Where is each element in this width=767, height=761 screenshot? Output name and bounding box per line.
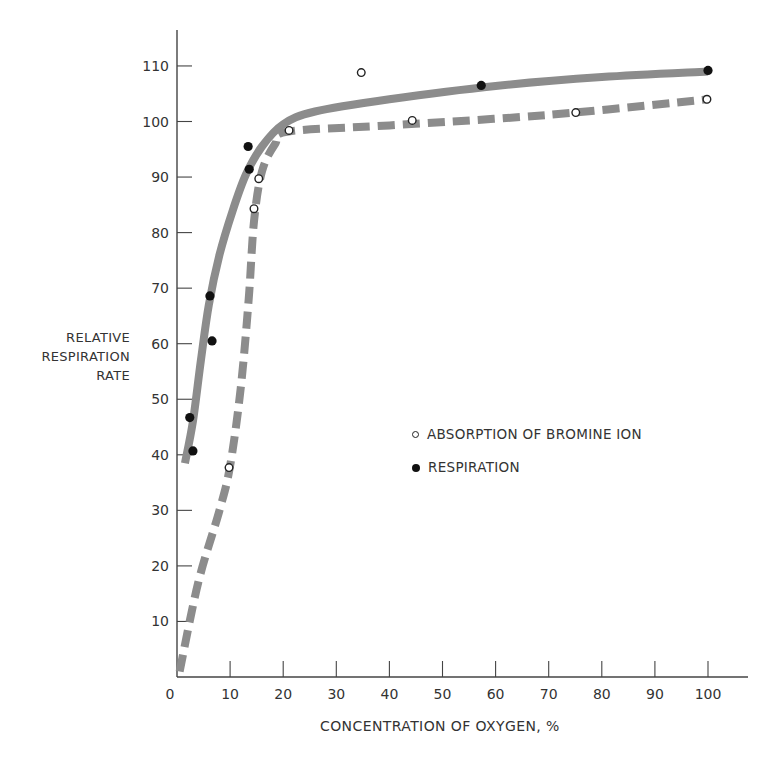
respiration-point [245,165,254,174]
y-axis-label-line-3: RATE [41,366,130,385]
y-tick-label: 50 [151,391,169,407]
respiration-point [477,81,486,90]
bromine-point [408,117,416,125]
x-tick-label: 100 [695,686,722,702]
y-tick-label: 30 [151,502,169,518]
y-tick-label: 100 [142,114,169,130]
x-tick-label: 80 [593,686,611,702]
legend-label-respiration: RESPIRATION [428,451,520,484]
x-tick-label: 0 [166,686,175,702]
bromine-point [250,205,258,213]
respiration-point [703,66,712,75]
y-tick-label: 110 [142,58,169,74]
bromine-point [703,95,711,103]
x-tick-label: 70 [540,686,558,702]
y-tick-label: 90 [151,169,169,185]
x-tick-label: 40 [380,686,398,702]
open-circle-icon [412,431,419,438]
respiration-point [185,413,194,422]
x-tick-label: 60 [487,686,505,702]
y-tick-label: 70 [151,280,169,296]
x-axis-label: CONCENTRATION OF OXYGEN, % [320,718,560,734]
respiration-point [188,446,197,455]
legend-item-bromine: ABSORPTION OF BROMINE ION [412,418,642,451]
x-tick-label: 30 [327,686,345,702]
legend-label-bromine: ABSORPTION OF BROMINE ION [427,418,642,451]
respiration-point [205,291,214,300]
bromine-point [357,69,365,77]
y-axis-label-line-2: RESPIRATION [41,347,130,366]
bromine-point [225,464,233,472]
respiration-point [207,336,216,345]
x-tick-label: 20 [274,686,292,702]
bromine-absorption-curve [180,99,708,671]
respiration-curve [185,72,708,464]
bromine-point [285,127,293,135]
legend-item-respiration: RESPIRATION [412,451,642,484]
x-tick-label: 90 [646,686,664,702]
legend: ABSORPTION OF BROMINE ION RESPIRATION [412,418,642,484]
axes: 1020304050607080901001100102030405060708… [142,30,748,702]
data-points [185,66,712,472]
y-tick-label: 40 [151,447,169,463]
x-tick-label: 10 [221,686,239,702]
y-tick-label: 80 [151,225,169,241]
respiration-point [244,142,253,151]
x-tick-label: 50 [434,686,452,702]
y-tick-label: 20 [151,558,169,574]
y-tick-label: 10 [151,613,169,629]
bromine-point [572,109,580,117]
y-axis-label-line-1: RELATIVE [41,328,130,347]
y-tick-label: 60 [151,336,169,352]
fit-curves [180,72,708,672]
filled-circle-icon [412,464,420,472]
y-axis-label: RELATIVE RESPIRATION RATE [41,328,130,385]
bromine-point [255,175,263,183]
